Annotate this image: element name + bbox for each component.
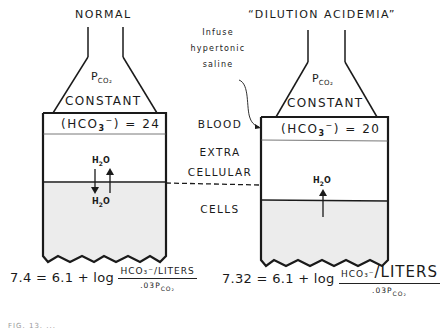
left-equation-fraction: HCO₃⁻/LITERS .03PCO₂	[118, 266, 196, 292]
right-bicarbonate-value: (HCO3−) = 20	[281, 121, 380, 138]
cells-label: CELLS	[180, 203, 260, 215]
left-equation-denominator: .03PCO₂	[118, 279, 196, 292]
right-cells-fill	[261, 201, 388, 266]
right-equation-denominator: .03PCO₂	[339, 284, 440, 297]
right-constant-label: CONSTANT	[287, 96, 364, 110]
left-bicarbonate-value: (HCO3−) = 24	[61, 116, 160, 133]
left-panel-title: NORMAL	[75, 8, 132, 21]
right-h2o-extracellular: H2O	[313, 176, 331, 187]
left-pco2-label: PCO₂	[91, 70, 112, 85]
right-cell-membrane	[261, 200, 388, 201]
right-blood-divider	[261, 140, 388, 141]
left-equation: 7.4 = 6.1 + log HCO₃⁻/LITERS .03PCO₂	[10, 266, 197, 292]
left-equation-lhs: 7.4 = 6.1 + log	[10, 270, 114, 285]
left-constant-label: CONSTANT	[65, 94, 142, 108]
right-equation: 7.32 = 6.1 + log HCO₃⁻/LITERS .03PCO₂	[222, 263, 440, 297]
extracellular-label: EXTRA CELLULAR	[180, 142, 260, 182]
right-arrow-up-head	[319, 189, 327, 196]
left-equation-numerator: HCO₃⁻/LITERS	[118, 266, 196, 279]
left-cells-fill	[43, 183, 166, 262]
left-h2o-extracellular: H2O	[92, 156, 110, 167]
right-panel-title: “DILUTION ACIDEMIA”	[248, 8, 396, 21]
right-equation-numerator: HCO₃⁻/LITERS	[339, 263, 440, 284]
left-arrow-up-head	[106, 168, 114, 175]
dashed-membrane-link	[166, 183, 260, 185]
blood-label: BLOOD	[180, 118, 260, 130]
right-equation-fraction: HCO₃⁻/LITERS .03PCO₂	[339, 263, 440, 297]
left-h2o-cells: H2O	[92, 197, 110, 208]
right-pco2-label: PCO₂	[312, 72, 333, 87]
figure-caption: FIG. 13. ...	[8, 322, 56, 330]
right-equation-lhs: 7.32 = 6.1 + log	[222, 271, 335, 286]
infuse-annotation: Infuse hypertonic saline	[183, 25, 253, 73]
